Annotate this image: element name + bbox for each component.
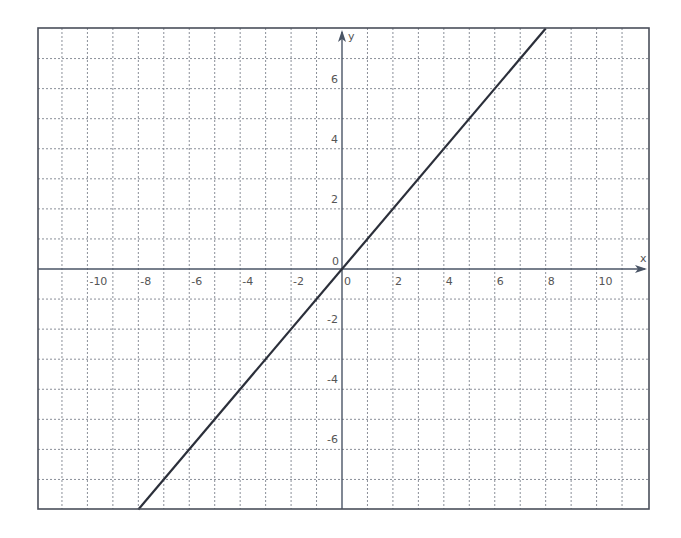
x-tick-label: -6 [191,275,202,288]
x-tick-label: -4 [242,275,253,288]
y-tick-label: 4 [331,133,338,146]
x-tick-label: -2 [293,275,304,288]
coordinate-plane: -10-8-6-4-20246810-6-4-20246 x y [0,0,681,538]
x-axis-label: x [640,252,647,265]
y-tick-label: -6 [327,433,338,446]
x-tick-label: 4 [446,275,453,288]
x-tick-label: 2 [395,275,402,288]
x-tick-label: 8 [548,275,555,288]
y-tick-label: 0 [332,255,339,268]
y-tick-label: 6 [331,73,338,86]
x-tick-label: -8 [140,275,151,288]
x-tick-label: 6 [497,275,504,288]
y-axis-label: y [348,30,355,43]
x-tick-label: 0 [344,275,351,288]
x-tick-label: 10 [599,275,613,288]
y-tick-label: -2 [327,313,338,326]
y-tick-label: -4 [327,373,338,386]
x-tick-label: -10 [89,275,107,288]
y-tick-label: 2 [331,193,338,206]
